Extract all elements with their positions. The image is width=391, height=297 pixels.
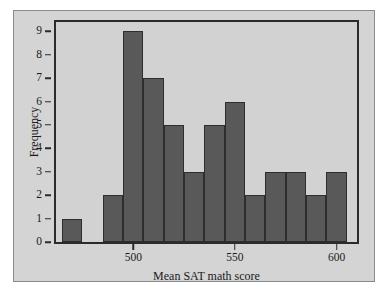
histogram-bar xyxy=(143,78,163,242)
histogram-bar xyxy=(326,172,346,242)
plot-area xyxy=(54,20,359,244)
y-tick-label: 4 xyxy=(36,143,42,155)
y-tick-mark xyxy=(45,148,51,150)
x-axis: Mean SAT math score 500550600 xyxy=(54,244,359,284)
x-tick-mark xyxy=(336,244,338,250)
y-axis: Frequency 0123456789 xyxy=(14,11,54,253)
histogram-bar xyxy=(204,125,224,242)
x-tick-label: 600 xyxy=(328,252,345,264)
histogram-bar xyxy=(164,125,184,242)
histogram-bar xyxy=(184,172,204,242)
y-tick-mark xyxy=(45,241,51,243)
x-tick-label: 550 xyxy=(226,252,243,264)
histogram-bar xyxy=(103,195,123,242)
x-axis-title: Mean SAT math score xyxy=(54,269,359,284)
y-tick-label: 8 xyxy=(36,49,42,61)
figure-panel: Frequency 0123456789 Mean SAT math score… xyxy=(13,10,375,282)
y-tick-label: 9 xyxy=(36,26,42,38)
histogram-bar xyxy=(225,102,245,242)
histogram-bars xyxy=(56,22,357,242)
y-tick-mark xyxy=(45,101,51,103)
histogram-bar xyxy=(286,172,306,242)
y-tick-mark xyxy=(45,54,51,56)
y-tick-label: 7 xyxy=(36,72,42,84)
histogram-bar xyxy=(62,219,82,242)
y-tick-label: 0 xyxy=(36,236,42,248)
histogram-bar xyxy=(306,195,326,242)
y-tick-mark xyxy=(45,77,51,79)
y-tick-mark xyxy=(45,124,51,126)
x-tick-mark xyxy=(234,244,236,250)
figure-caption xyxy=(0,287,391,297)
y-tick-mark xyxy=(45,31,51,33)
histogram-bar xyxy=(245,195,265,242)
x-tick-mark xyxy=(133,244,135,250)
y-tick-label: 3 xyxy=(36,166,42,178)
y-tick-label: 5 xyxy=(36,119,42,131)
histogram-bar xyxy=(265,172,285,242)
y-tick-mark xyxy=(45,218,51,220)
y-tick-mark xyxy=(45,171,51,173)
y-tick-mark xyxy=(45,194,51,196)
x-tick-label: 500 xyxy=(125,252,142,264)
y-tick-label: 6 xyxy=(36,96,42,108)
y-tick-label: 2 xyxy=(36,189,42,201)
histogram-bar xyxy=(123,31,143,242)
y-tick-label: 1 xyxy=(36,213,42,225)
